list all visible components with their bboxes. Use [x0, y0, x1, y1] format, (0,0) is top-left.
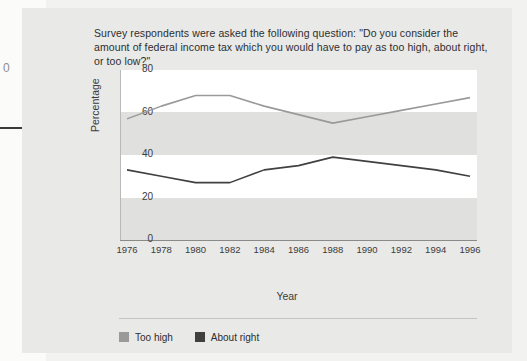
margin-glyph: 0: [3, 60, 17, 76]
plot-area: Percentage 020406080 1976197819801982198…: [97, 70, 477, 248]
x-tick-label: 1980: [179, 244, 213, 255]
line-series-too-high: [127, 96, 470, 124]
line-series-about-right: [127, 157, 470, 183]
y-axis-title: Percentage: [89, 78, 101, 132]
x-axis-line: [120, 240, 477, 241]
legend-swatch: [195, 332, 205, 342]
x-tick-label: 1996: [453, 244, 487, 255]
x-tick-label: 1984: [247, 244, 281, 255]
x-axis-tick-labels: 1976197819801982198419861988199019921994…: [120, 244, 477, 258]
x-tick-label: 1990: [350, 244, 384, 255]
legend-divider: [119, 318, 477, 319]
x-axis-title: Year: [97, 290, 477, 302]
series-lines: [120, 70, 477, 240]
chart-legend: Too highAbout right: [119, 330, 259, 344]
legend-item[interactable]: Too high: [119, 332, 173, 343]
legend-label: Too high: [135, 332, 173, 343]
x-tick-label: 1992: [384, 244, 418, 255]
x-tick-label: 1982: [213, 244, 247, 255]
x-tick-label: 1986: [282, 244, 316, 255]
line-chart-figure: Survey respondents were asked the follow…: [22, 8, 512, 353]
legend-swatch: [119, 332, 129, 342]
legend-label: About right: [211, 332, 259, 343]
x-tick-label: 1976: [110, 244, 144, 255]
scanned-page-panel: Survey respondents were asked the follow…: [22, 8, 512, 353]
legend-item[interactable]: About right: [195, 332, 259, 343]
chart-title: Survey respondents were asked the follow…: [94, 26, 494, 68]
x-tick-label: 1988: [316, 244, 350, 255]
x-tick-label: 1994: [419, 244, 453, 255]
x-tick-label: 1978: [144, 244, 178, 255]
